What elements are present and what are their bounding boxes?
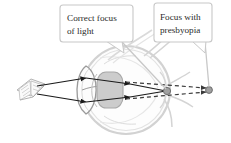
retina-focus-point <box>163 87 170 94</box>
diagram-canvas: Correct focus of light Focus with presby… <box>0 0 231 143</box>
optic-nerve-main <box>167 95 193 107</box>
callout-presbyopia-tail <box>192 41 206 53</box>
callout-presbyopia-line2: presbyopia <box>160 25 200 35</box>
callout-correct-focus-line1: Correct focus <box>67 13 117 23</box>
crystalline-lens <box>97 72 123 108</box>
callout-presbyopia[interactable]: Focus with presbyopia <box>154 3 212 53</box>
callout-correct-focus-line2: of light <box>67 26 94 36</box>
book-object-group <box>17 79 45 100</box>
eye-focus-diagram-figure: Correct focus of light Focus with presby… <box>0 0 231 143</box>
callout-correct-focus-box <box>60 5 133 42</box>
callout-correct-focus[interactable]: Correct focus of light <box>60 5 133 53</box>
callout-presbyopia-box <box>154 3 212 42</box>
callout-presbyopia-line1: Focus with <box>160 12 201 22</box>
presbyopia-focus-point <box>206 87 213 94</box>
eye-anatomy-group <box>77 30 193 134</box>
